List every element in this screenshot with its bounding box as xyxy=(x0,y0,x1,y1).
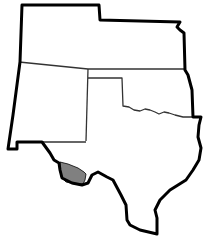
region-fill xyxy=(8,5,201,234)
region-map xyxy=(0,0,204,240)
map-container xyxy=(0,0,204,240)
